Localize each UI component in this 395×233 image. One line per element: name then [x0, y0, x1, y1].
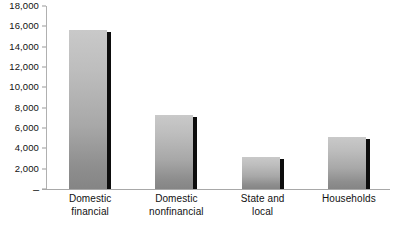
x-axis-category-label-line: State and [220, 193, 306, 206]
x-axis-category-label-line: local [220, 206, 306, 219]
y-axis-tick-label: 14,000 [9, 42, 39, 52]
y-axis-tick-label: 4,000 [15, 143, 39, 153]
bar-top-right-notch [193, 115, 197, 117]
x-axis-category-labels: DomesticfinancialDomesticnonfinancialSta… [47, 193, 395, 233]
bar-fill [328, 137, 366, 189]
bar-fill [242, 157, 280, 189]
bar [242, 157, 284, 189]
bar-fill [69, 30, 107, 189]
bar-right-edge [366, 139, 370, 189]
x-axis-category-label-line: Households [306, 193, 392, 206]
y-axis-tick-label: 18,000 [9, 1, 39, 11]
x-axis-category-label: State andlocal [220, 193, 306, 218]
bar-right-edge [107, 32, 111, 189]
y-axis-tick-labels: –2,0004,0006,0008,00010,00012,00014,0001… [0, 0, 42, 195]
x-axis-category-label-line: Domestic [47, 193, 133, 206]
y-axis-tick-label: 8,000 [15, 103, 39, 113]
x-axis-category-label: Domesticfinancial [47, 193, 133, 218]
y-axis-tick-label: 16,000 [9, 21, 39, 31]
y-axis-tick-label: – [33, 184, 39, 194]
bar-fill [155, 115, 193, 189]
plot-area [47, 6, 392, 189]
bar-right-edge [193, 117, 197, 189]
bar-top-right-notch [366, 137, 370, 139]
bar-top-right-notch [107, 30, 111, 32]
x-axis-category-label-line: financial [47, 206, 133, 219]
x-axis-category-label-line: Domestic [133, 193, 219, 206]
x-axis-category-label-line: nonfinancial [133, 206, 219, 219]
bar [155, 115, 197, 189]
bar-chart: –2,0004,0006,0008,00010,00012,00014,0001… [0, 0, 395, 233]
bar [69, 30, 111, 189]
bar [328, 137, 370, 189]
bar-right-edge [280, 159, 284, 189]
y-axis-tick-label: 2,000 [15, 164, 39, 174]
bar-top-right-notch [280, 157, 284, 159]
y-axis-tick-label: 10,000 [9, 82, 39, 92]
x-axis-category-label: Households [306, 193, 392, 206]
y-axis-tick-label: 12,000 [9, 62, 39, 72]
x-axis-category-label: Domesticnonfinancial [133, 193, 219, 218]
x-axis-line [42, 189, 390, 190]
y-axis-tick-label: 6,000 [15, 123, 39, 133]
